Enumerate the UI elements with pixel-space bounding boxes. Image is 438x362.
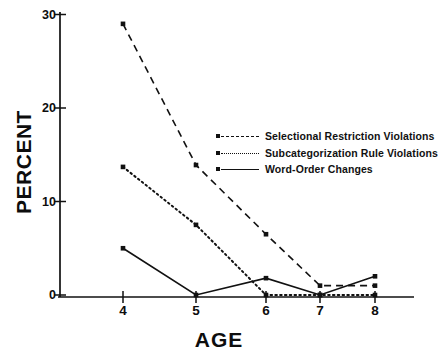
data-point-2-3 (318, 293, 323, 298)
legend-marker-square-icon (216, 134, 220, 138)
data-point-0-3 (318, 283, 323, 288)
series-line-2 (123, 248, 375, 295)
data-point-1-4 (373, 293, 378, 298)
legend-line-solid-icon (221, 169, 259, 170)
legend-item-subcategorization-rule-violations: Subcategorization Rule Violations (216, 146, 416, 160)
series-dotted (121, 165, 378, 298)
data-point-2-4 (373, 274, 378, 279)
data-point-0-4 (373, 283, 378, 288)
legend-item-selectional-restriction-violations: Selectional Restriction Violations (216, 129, 416, 143)
data-point-0-2 (264, 232, 269, 237)
legend-item-word-order-changes: Word-Order Changes (216, 162, 416, 176)
legend-key-dashed-icon (216, 130, 260, 142)
legend-key-solid-icon (216, 163, 260, 175)
data-point-1-2 (264, 293, 269, 298)
data-point-0-1 (194, 163, 199, 168)
legend-line-dashed-icon (221, 136, 259, 137)
chart-legend: Selectional Restriction Violations Subca… (216, 129, 416, 179)
series-solid (121, 246, 378, 297)
data-point-2-1 (194, 293, 199, 298)
series-line-1 (123, 167, 375, 295)
legend-key-dotted-icon (216, 147, 260, 159)
data-point-0-0 (121, 22, 126, 27)
data-point-1-0 (121, 165, 126, 170)
legend-label-2: Word-Order Changes (265, 163, 373, 175)
data-point-1-1 (194, 223, 199, 228)
legend-line-dotted-icon (221, 153, 259, 154)
legend-label-0: Selectional Restriction Violations (265, 130, 435, 142)
legend-marker-square-icon (216, 151, 220, 155)
data-point-2-0 (121, 246, 126, 251)
data-point-2-2 (264, 276, 269, 281)
legend-label-1: Subcategorization Rule Violations (265, 147, 438, 159)
legend-marker-square-icon (216, 167, 220, 171)
